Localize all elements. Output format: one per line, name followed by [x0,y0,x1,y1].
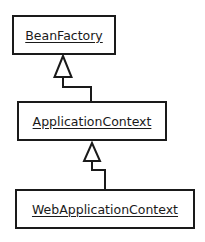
hollow-triangle-arrowhead-icon [84,143,100,161]
generalization-webapplicationcontext-to-applicationcontext [84,143,105,189]
class-name: WebApplicationContext [32,202,178,217]
generalization-applicationcontext-to-beanfactory [55,56,92,101]
class-box-webapplicationcontext[interactable]: WebApplicationContext [15,189,195,229]
class-name: ApplicationContext [33,114,152,129]
class-name: BeanFactory [25,28,103,43]
class-box-applicationcontext[interactable]: ApplicationContext [17,101,167,141]
class-box-beanfactory[interactable]: BeanFactory [12,15,116,55]
hollow-triangle-arrowhead-icon [55,56,72,77]
